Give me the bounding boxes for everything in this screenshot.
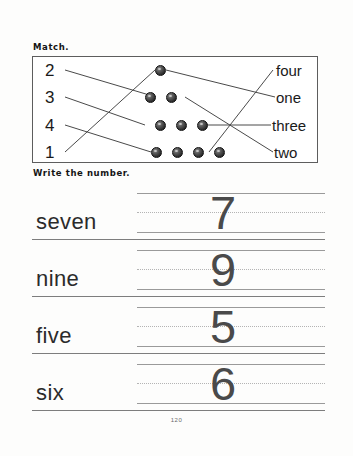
dot [176, 120, 187, 131]
match-word-three[interactable]: three [272, 118, 306, 133]
row-baseline [32, 296, 325, 297]
write-section-heading: Write the number. [33, 168, 130, 178]
number-word-label: five [36, 323, 72, 349]
dot [172, 147, 183, 158]
numeral-display: 9 [193, 246, 253, 293]
match-number-1[interactable]: 2 [45, 62, 63, 79]
row-baseline [32, 410, 325, 411]
dot [145, 92, 156, 103]
worksheet-page: Match. 2 [0, 0, 353, 456]
match-section-heading: Match. [33, 42, 69, 52]
numeral-display: 6 [193, 360, 253, 407]
match-word-one[interactable]: one [276, 90, 301, 105]
match-word-four[interactable]: four [276, 63, 302, 78]
dot [214, 147, 225, 158]
row-baseline [32, 353, 325, 354]
dot [166, 92, 177, 103]
dot [155, 65, 166, 76]
match-exercise-box: 2 3 4 1 four one three two [32, 56, 318, 163]
match-number-4[interactable]: 1 [45, 144, 63, 161]
numeral-display: 7 [193, 189, 253, 236]
match-word-two[interactable]: two [274, 145, 297, 160]
write-row-seven[interactable]: 7 seven [0, 190, 353, 247]
write-row-nine[interactable]: 9 nine [0, 247, 353, 304]
write-row-six[interactable]: 6 six [0, 361, 353, 418]
dot [151, 147, 162, 158]
match-number-2[interactable]: 3 [45, 89, 63, 106]
dot [155, 120, 166, 131]
row-baseline [32, 239, 325, 240]
dot [193, 147, 204, 158]
numeral-display: 5 [193, 303, 253, 350]
match-number-3[interactable]: 4 [45, 117, 63, 134]
number-word-label: seven [36, 209, 97, 235]
write-row-five[interactable]: 5 five [0, 304, 353, 361]
number-word-label: nine [36, 266, 79, 292]
page-number: 120 [0, 417, 353, 423]
number-word-label: six [36, 380, 64, 406]
dot [197, 120, 208, 131]
